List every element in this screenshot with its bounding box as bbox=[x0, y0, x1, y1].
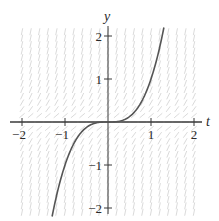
slope-segment bbox=[167, 67, 169, 74]
slope-segment bbox=[98, 100, 101, 106]
slope-segment bbox=[175, 132, 179, 138]
slope-segment bbox=[157, 113, 162, 118]
slope-segment bbox=[30, 209, 31, 216]
slope-segment bbox=[176, 209, 177, 216]
slope-segment bbox=[140, 126, 145, 131]
slope-segment bbox=[158, 138, 161, 144]
slope-segment bbox=[183, 132, 187, 138]
slope-segment bbox=[133, 28, 134, 35]
slope-segment bbox=[193, 35, 194, 42]
slope-segment bbox=[89, 132, 93, 138]
slope-segment bbox=[124, 87, 127, 93]
slope-segment bbox=[150, 61, 152, 68]
slope-segment bbox=[62, 113, 67, 118]
slope-segment bbox=[56, 35, 57, 42]
slope-segment bbox=[116, 74, 118, 81]
slope-segment bbox=[185, 202, 186, 209]
slope-segment bbox=[124, 157, 126, 164]
slope-segment bbox=[176, 190, 178, 197]
slope-segment bbox=[176, 164, 178, 171]
slope-segment bbox=[56, 202, 57, 209]
slope-segment bbox=[90, 183, 92, 190]
slope-segment bbox=[185, 196, 187, 203]
slope-segment bbox=[72, 157, 74, 164]
slope-segment bbox=[142, 196, 144, 203]
slope-segment bbox=[56, 41, 58, 48]
slope-segment bbox=[193, 157, 195, 164]
slope-segment bbox=[115, 138, 118, 144]
slope-segment bbox=[64, 41, 66, 48]
slope-segment bbox=[184, 80, 186, 87]
slope-segment bbox=[184, 67, 186, 74]
slope-segment bbox=[30, 67, 32, 74]
slope-field-plot: −2−112−2−112 t y bbox=[0, 0, 219, 221]
slope-segment bbox=[46, 100, 49, 106]
slope-segment bbox=[47, 202, 48, 209]
y-tick-label: −2 bbox=[88, 201, 102, 216]
slope-segment bbox=[29, 106, 33, 112]
slope-segment bbox=[166, 126, 171, 131]
slope-segment bbox=[97, 126, 102, 131]
slope-segment bbox=[184, 157, 186, 164]
slope-segment bbox=[167, 41, 169, 48]
slope-segment bbox=[73, 35, 74, 42]
slope-segment bbox=[174, 126, 179, 131]
slope-segment bbox=[64, 48, 66, 55]
slope-segment bbox=[133, 48, 135, 55]
slope-segment bbox=[90, 41, 92, 48]
slope-segment bbox=[38, 164, 40, 171]
slope-segment bbox=[38, 48, 40, 55]
slope-segment bbox=[47, 190, 49, 197]
slope-segment bbox=[90, 74, 92, 81]
slope-segment bbox=[168, 28, 169, 35]
slope-segment bbox=[167, 35, 168, 42]
slope-segment bbox=[71, 113, 76, 118]
slope-segment bbox=[47, 28, 48, 35]
slope-segment bbox=[124, 61, 126, 68]
slope-segment bbox=[47, 54, 49, 61]
slope-segment bbox=[150, 157, 152, 164]
slope-segment bbox=[81, 145, 84, 151]
slope-segment bbox=[97, 113, 102, 118]
slope-segment bbox=[21, 74, 23, 81]
slope-segment bbox=[80, 100, 83, 106]
slope-segment bbox=[141, 87, 144, 93]
slope-segment bbox=[89, 145, 92, 151]
slope-segment bbox=[116, 41, 118, 48]
slope-segment bbox=[64, 87, 67, 93]
slope-segment bbox=[99, 48, 101, 55]
slope-segment bbox=[38, 67, 40, 74]
slope-segment bbox=[176, 67, 178, 74]
slope-segment bbox=[159, 61, 161, 68]
slope-segment bbox=[30, 28, 31, 35]
slope-segment bbox=[193, 61, 195, 68]
slope-segment bbox=[38, 87, 41, 93]
slope-segment bbox=[193, 164, 195, 171]
slope-segment bbox=[38, 190, 40, 197]
slope-segment bbox=[150, 35, 151, 42]
slope-segment bbox=[116, 28, 117, 35]
slope-segment bbox=[159, 54, 161, 61]
slope-segment bbox=[133, 209, 134, 216]
slope-segment bbox=[123, 132, 127, 138]
slope-segment bbox=[114, 113, 119, 118]
slope-segment bbox=[150, 93, 153, 99]
slope-segment bbox=[159, 67, 161, 74]
slope-segment bbox=[73, 61, 75, 68]
slope-segment bbox=[115, 157, 117, 164]
slope-segment bbox=[150, 190, 152, 197]
slope-segment bbox=[175, 100, 178, 106]
slope-segment bbox=[56, 183, 58, 190]
slope-segment bbox=[184, 74, 186, 81]
slope-segment bbox=[133, 61, 135, 68]
slope-segment bbox=[150, 87, 153, 93]
slope-segment bbox=[115, 145, 118, 151]
slope-segment bbox=[30, 177, 32, 184]
slope-segment bbox=[183, 106, 187, 112]
slope-segment bbox=[141, 61, 143, 68]
y-tick-label: −1 bbox=[88, 158, 102, 173]
slope-segment bbox=[46, 132, 50, 138]
slope-segment bbox=[38, 61, 40, 68]
slope-segment bbox=[115, 80, 117, 87]
slope-segment bbox=[29, 157, 31, 164]
